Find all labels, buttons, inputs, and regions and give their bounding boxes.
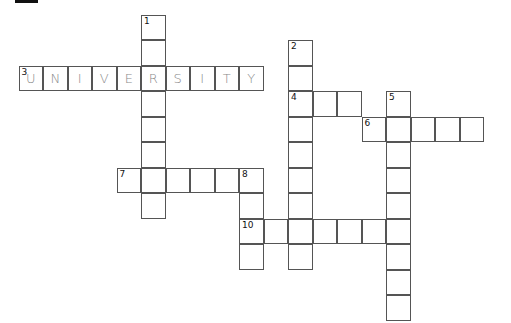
crossword-cell[interactable]: [386, 219, 411, 245]
clue-number: 1: [144, 16, 150, 26]
crossword-cell[interactable]: 2: [288, 40, 313, 66]
crossword-cell[interactable]: [313, 219, 338, 245]
crossword-cell[interactable]: [288, 117, 313, 143]
crossword-cell[interactable]: [460, 117, 485, 143]
crossword-cell[interactable]: [239, 244, 264, 270]
crossword-cell[interactable]: [313, 91, 338, 117]
crossword-cell[interactable]: [141, 168, 166, 194]
crossword-cell[interactable]: [386, 168, 411, 194]
crossword-cell[interactable]: [215, 168, 240, 194]
crossword-cell[interactable]: [264, 219, 289, 245]
crossword-cell[interactable]: 5: [386, 91, 411, 117]
cell-letter: E: [118, 71, 141, 86]
crossword-cell[interactable]: [288, 193, 313, 219]
crossword-cell[interactable]: [141, 117, 166, 143]
crossword-cell[interactable]: Y: [239, 66, 264, 92]
crossword-cell[interactable]: [386, 142, 411, 168]
cell-letter: T: [216, 71, 239, 86]
crossword-cell[interactable]: [190, 168, 215, 194]
clue-number: 6: [365, 118, 371, 128]
crossword-cell[interactable]: I: [190, 66, 215, 92]
crossword-cell[interactable]: E: [117, 66, 142, 92]
crossword-cell[interactable]: [288, 142, 313, 168]
crossword-cell[interactable]: [435, 117, 460, 143]
crossword-cell[interactable]: [141, 40, 166, 66]
crossword-cell[interactable]: [362, 219, 387, 245]
clue-number: 7: [120, 169, 126, 179]
crossword-cell[interactable]: [386, 270, 411, 296]
crossword-cell[interactable]: [166, 168, 191, 194]
crossword-cell[interactable]: 1: [141, 15, 166, 41]
crossword-cell[interactable]: T: [215, 66, 240, 92]
crossword-cell[interactable]: 10: [239, 219, 264, 245]
clue-number: 5: [389, 92, 395, 102]
crossword-cell[interactable]: [141, 193, 166, 219]
crossword-cell[interactable]: [288, 244, 313, 270]
crossword-cell[interactable]: S: [166, 66, 191, 92]
cell-letter: I: [69, 71, 92, 86]
crossword-cell[interactable]: R: [141, 66, 166, 92]
crossword-cell[interactable]: [239, 193, 264, 219]
crossword-cell[interactable]: I: [68, 66, 93, 92]
crossword-cell[interactable]: [386, 244, 411, 270]
crossword-cell[interactable]: 8: [239, 168, 264, 194]
crossword-cell[interactable]: 3U: [19, 66, 44, 92]
cell-letter: U: [20, 71, 43, 86]
crossword-cell[interactable]: [141, 91, 166, 117]
cell-letter: S: [167, 71, 190, 86]
crossword-cell[interactable]: [288, 66, 313, 92]
crossword-cell[interactable]: [337, 91, 362, 117]
crossword-cell[interactable]: [386, 193, 411, 219]
header-bar: [15, 0, 38, 3]
cell-letter: N: [44, 71, 67, 86]
cell-letter: I: [191, 71, 214, 86]
crossword-cell[interactable]: 6: [362, 117, 387, 143]
crossword-cell[interactable]: [386, 295, 411, 321]
crossword-cell[interactable]: [288, 219, 313, 245]
crossword-cell[interactable]: 4: [288, 91, 313, 117]
crossword-cell[interactable]: 7: [117, 168, 142, 194]
crossword-cell[interactable]: [386, 117, 411, 143]
crossword-cell[interactable]: N: [43, 66, 68, 92]
clue-number: 2: [291, 41, 297, 51]
cell-letter: Y: [240, 71, 263, 86]
crossword-cell[interactable]: [337, 219, 362, 245]
crossword-cell[interactable]: V: [92, 66, 117, 92]
crossword-cell[interactable]: [141, 142, 166, 168]
crossword-cell[interactable]: [288, 168, 313, 194]
clue-number: 10: [242, 220, 253, 230]
crossword-cell[interactable]: [411, 117, 436, 143]
cell-letter: R: [142, 71, 165, 86]
clue-number: 4: [291, 92, 297, 102]
clue-number: 8: [242, 169, 248, 179]
cell-letter: V: [93, 71, 116, 86]
